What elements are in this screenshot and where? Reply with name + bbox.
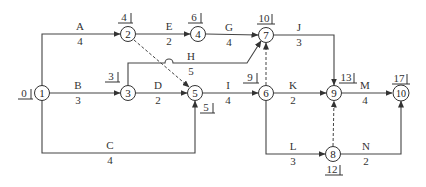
node-5: 5 <box>188 86 203 101</box>
node-10: 10 <box>393 85 409 101</box>
activity-k: K 2 <box>274 79 326 106</box>
activity-n-name: N <box>362 140 370 152</box>
node-7: 7 <box>259 28 274 43</box>
svg-text:4: 4 <box>195 28 201 40</box>
node-9: 9 <box>327 86 342 101</box>
activity-l: L 3 <box>266 101 325 167</box>
svg-text:4: 4 <box>121 11 127 23</box>
activity-a-duration: 4 <box>77 35 83 47</box>
svg-text:6: 6 <box>263 87 269 99</box>
time-marker-node-8: 12 <box>325 163 343 175</box>
activity-e-duration: 2 <box>166 35 172 47</box>
activity-l-name: L <box>290 140 297 152</box>
activity-e-name: E <box>166 20 173 32</box>
svg-text:10: 10 <box>396 88 406 99</box>
activity-a-name: A <box>76 20 84 32</box>
node-2: 2 <box>121 27 136 42</box>
activity-c: C 4 <box>42 100 195 166</box>
node-8: 8 <box>326 147 341 162</box>
svg-text:7: 7 <box>263 29 269 41</box>
activity-j-duration: 3 <box>296 36 302 48</box>
svg-text:17: 17 <box>394 72 406 84</box>
activity-n: N 2 <box>341 101 401 167</box>
time-marker-node-2: 4 <box>118 11 133 23</box>
node-6: 6 <box>259 86 274 101</box>
time-marker-node-9: 13 <box>339 71 357 83</box>
time-marker-node-1: 0 <box>18 87 33 99</box>
activity-i-duration: 4 <box>225 94 231 106</box>
activity-g-name: G <box>225 21 233 33</box>
svg-text:3: 3 <box>108 70 114 82</box>
activity-b-name: B <box>74 79 81 91</box>
activity-m-duration: 4 <box>362 94 368 106</box>
activity-h: H 5 <box>128 41 261 86</box>
activity-k-name: K <box>289 79 297 91</box>
time-marker-node-7: 10 <box>257 12 275 24</box>
activity-d-name: D <box>154 79 162 91</box>
activity-d-duration: 2 <box>155 94 161 106</box>
node-4: 4 <box>191 27 206 42</box>
svg-text:5: 5 <box>203 101 209 113</box>
svg-text:5: 5 <box>192 87 198 99</box>
activity-b: B 3 <box>49 79 120 106</box>
svg-text:6: 6 <box>191 11 197 23</box>
svg-text:10: 10 <box>259 12 271 24</box>
activity-i-name: I <box>226 79 230 91</box>
activity-l-duration: 3 <box>290 155 296 167</box>
node-3: 3 <box>121 86 136 101</box>
time-marker-node-5: 5 <box>200 101 215 113</box>
time-marker-node-4: 6 <box>188 11 203 23</box>
activity-g-duration: 4 <box>226 36 232 48</box>
time-marker-node-10: 17 <box>392 72 410 84</box>
activity-c-name: C <box>106 139 113 151</box>
activity-m-name: M <box>360 79 370 91</box>
svg-text:9: 9 <box>331 87 337 99</box>
activity-e: E 2 <box>136 20 190 47</box>
activity-g: G 4 <box>206 21 258 48</box>
svg-text:13: 13 <box>341 71 353 83</box>
svg-text:2: 2 <box>125 28 131 40</box>
svg-text:12: 12 <box>327 163 338 175</box>
activity-j: J 3 <box>274 21 334 85</box>
svg-text:0: 0 <box>21 87 27 99</box>
svg-text:1: 1 <box>39 87 45 99</box>
activity-c-duration: 4 <box>107 154 113 166</box>
network-diagram: A 4 B 3 C 4 D 2 E 2 G 4 H 5 I 4 <box>0 0 426 187</box>
activity-d: D 2 <box>136 79 187 106</box>
activity-j-name: J <box>297 21 302 33</box>
svg-text:9: 9 <box>247 71 253 83</box>
svg-text:3: 3 <box>125 87 131 99</box>
svg-text:8: 8 <box>330 148 336 160</box>
node-1: 1 <box>35 86 50 101</box>
dummy-8-9 <box>333 101 334 146</box>
activity-h-duration: 5 <box>188 65 194 77</box>
activity-k-duration: 2 <box>290 94 296 106</box>
activity-h-name: H <box>187 50 195 62</box>
time-marker-node-6: 9 <box>243 71 259 83</box>
activity-n-duration: 2 <box>363 155 369 167</box>
activity-b-duration: 3 <box>75 94 81 106</box>
time-marker-node-3: 3 <box>105 70 120 82</box>
